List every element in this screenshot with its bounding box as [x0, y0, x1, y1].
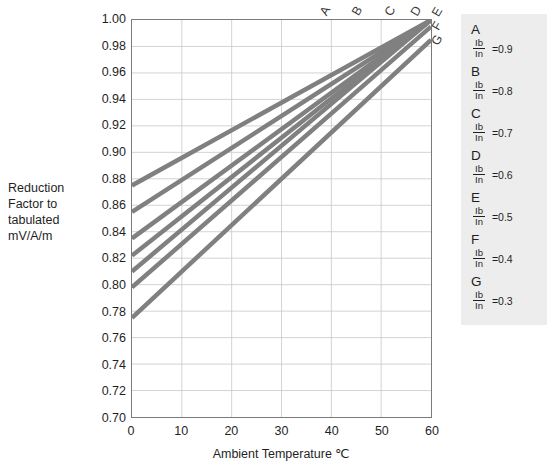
legend-value: =0.7 [492, 127, 513, 139]
legend-fraction-denominator: In [473, 301, 485, 311]
legend-fraction-denominator: In [473, 49, 485, 59]
legend-fraction-denominator: In [473, 91, 485, 101]
legend-value: =0.9 [492, 43, 513, 55]
legend-entry-f: FIbIn=0.4 [471, 232, 547, 269]
legend-panel: AIbIn=0.9BIbIn=0.8CIbIn=0.7DIbIn=0.6EIbI… [461, 14, 547, 325]
legend-value: =0.5 [492, 211, 513, 223]
legend-entry-d: DIbIn=0.6 [471, 148, 547, 185]
legend-value: =0.3 [492, 295, 513, 307]
y-tick-label: 0.86 [82, 199, 126, 211]
legend-entry-g: GIbIn=0.3 [471, 274, 547, 311]
legend-fraction: IbIn [473, 290, 485, 311]
curve-label-d: D [406, 1, 425, 20]
legend-ratio-row: IbIn=0.3 [471, 290, 547, 311]
x-axis-tick-labels: 0102030405060 [0, 424, 555, 442]
legend-ratio-row: IbIn=0.5 [471, 206, 547, 227]
x-tick-label: 50 [362, 424, 402, 438]
x-axis-title: Ambient Temperature ℃ [131, 446, 432, 461]
legend-letter: C [471, 106, 547, 121]
curve-label-c: C [380, 1, 399, 20]
y-tick-label: 1.00 [82, 13, 126, 25]
legend-letter: F [471, 232, 547, 247]
y-axis-tick-labels: 1.000.980.960.940.920.900.880.860.840.82… [80, 0, 126, 472]
y-tick-label: 0.92 [82, 119, 126, 131]
y-tick-label: 0.98 [82, 40, 126, 52]
y-tick-label: 0.90 [82, 146, 126, 158]
y-tick-label: 0.80 [82, 279, 126, 291]
series-lines [132, 20, 431, 417]
legend-fraction: IbIn [473, 80, 485, 101]
legend-entry-e: EIbIn=0.5 [471, 190, 547, 227]
legend-entry-b: BIbIn=0.8 [471, 64, 547, 101]
legend-fraction-denominator: In [473, 217, 485, 227]
legend-letter: E [471, 190, 547, 205]
y-tick-label: 0.84 [82, 226, 126, 238]
x-tick-label: 20 [211, 424, 251, 438]
legend-value: =0.8 [492, 85, 513, 97]
legend-ratio-row: IbIn=0.8 [471, 80, 547, 101]
legend-letter: A [471, 22, 547, 37]
x-tick-label: 40 [312, 424, 352, 438]
legend-ratio-row: IbIn=0.9 [471, 38, 547, 59]
legend-entry-a: AIbIn=0.9 [471, 22, 547, 59]
legend-value: =0.4 [492, 253, 513, 265]
legend-ratio-row: IbIn=0.7 [471, 122, 547, 143]
legend-ratio-row: IbIn=0.4 [471, 248, 547, 269]
curve-label-a: A [315, 1, 334, 20]
y-tick-label: 0.72 [82, 385, 126, 397]
legend-value: =0.6 [492, 169, 513, 181]
chart-plot-area [131, 19, 432, 418]
x-tick-label: 30 [262, 424, 302, 438]
x-tick-label: 10 [161, 424, 201, 438]
legend-fraction-denominator: In [473, 259, 485, 269]
legend-fraction: IbIn [473, 206, 485, 227]
legend-fraction: IbIn [473, 38, 485, 59]
legend-ratio-row: IbIn=0.6 [471, 164, 547, 185]
legend-fraction-denominator: In [473, 175, 485, 185]
legend-letter: G [471, 274, 547, 289]
legend-fraction: IbIn [473, 164, 485, 185]
y-tick-label: 0.94 [82, 93, 126, 105]
legend-entry-c: CIbIn=0.7 [471, 106, 547, 143]
y-tick-label: 0.88 [82, 173, 126, 185]
x-tick-label: 0 [111, 424, 151, 438]
y-tick-label: 0.96 [82, 66, 126, 78]
legend-letter: D [471, 148, 547, 163]
y-tick-label: 0.76 [82, 332, 126, 344]
legend-fraction: IbIn [473, 248, 485, 269]
y-tick-label: 0.82 [82, 252, 126, 264]
y-tick-label: 0.70 [82, 412, 126, 424]
legend-fraction: IbIn [473, 122, 485, 143]
legend-fraction-denominator: In [473, 133, 485, 143]
x-tick-label: 60 [412, 424, 452, 438]
legend-letter: B [471, 64, 547, 79]
curve-label-b: B [347, 1, 366, 20]
y-tick-label: 0.78 [82, 306, 126, 318]
y-tick-label: 0.74 [82, 359, 126, 371]
